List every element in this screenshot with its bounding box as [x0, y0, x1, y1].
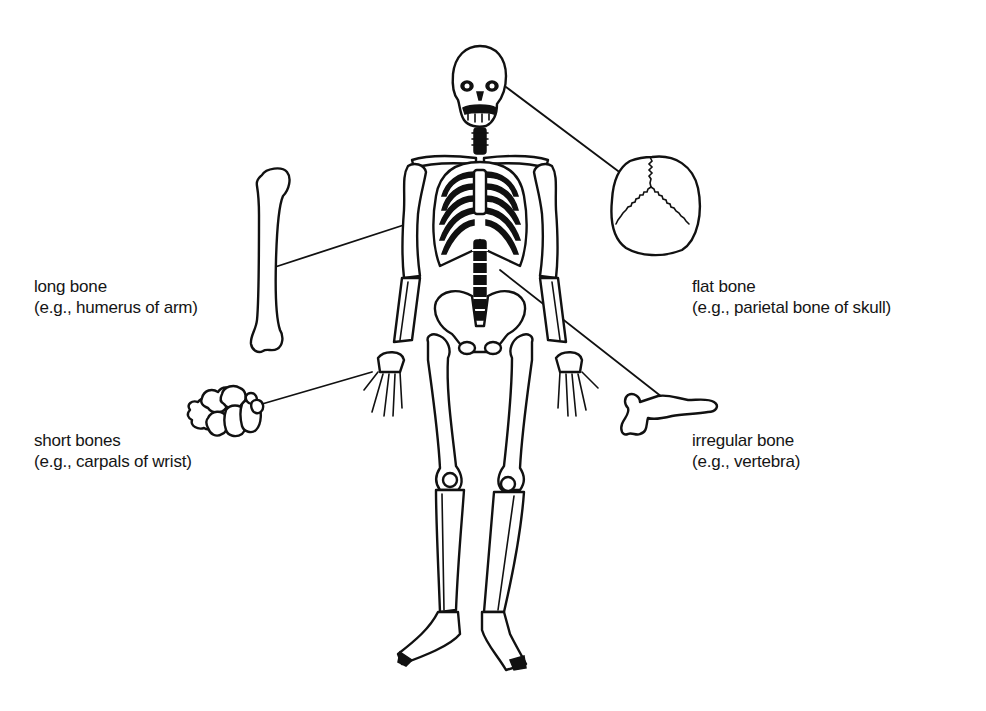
- connector-flat-bone: [506, 87, 630, 180]
- skeleton-wrist: [364, 352, 404, 416]
- flat-bone-example: (e.g., parietal bone of skull): [692, 297, 891, 318]
- bone-types-diagram: long bone (e.g., humerus of arm) flat bo…: [0, 0, 986, 711]
- skeleton-right-arm: [534, 164, 598, 416]
- skeleton: [364, 46, 598, 670]
- label-short-bones: short bones (e.g., carpals of wrist): [34, 430, 192, 472]
- label-long-bone: long bone (e.g., humerus of arm): [34, 276, 198, 318]
- skeleton-left-leg: [398, 334, 464, 666]
- carpals-illustration: [188, 386, 263, 436]
- short-bones-name: short bones: [34, 430, 192, 451]
- irregular-bone-example: (e.g., vertebra): [692, 451, 800, 472]
- skeleton-right-leg: [482, 334, 532, 670]
- long-bone-name: long bone: [34, 276, 198, 297]
- skeleton-neck: [472, 128, 488, 154]
- diagram-canvas: [0, 0, 986, 711]
- humerus-illustration: [251, 168, 290, 352]
- skeleton-left-arm: [394, 164, 426, 342]
- skeleton-humerus: [403, 164, 427, 278]
- connector-long-bone: [272, 223, 410, 268]
- skull-illustration: [611, 157, 700, 256]
- short-bones-example: (e.g., carpals of wrist): [34, 451, 192, 472]
- label-irregular-bone: irregular bone (e.g., vertebra): [692, 430, 800, 472]
- label-flat-bone: flat bone (e.g., parietal bone of skull): [692, 276, 891, 318]
- irregular-bone-name: irregular bone: [692, 430, 800, 451]
- sternum: [474, 170, 486, 214]
- flat-bone-name: flat bone: [692, 276, 891, 297]
- long-bone-example: (e.g., humerus of arm): [34, 297, 198, 318]
- skeleton-skull: [453, 46, 506, 127]
- vertebra-illustration: [621, 394, 717, 434]
- connector-short-bones: [262, 372, 372, 404]
